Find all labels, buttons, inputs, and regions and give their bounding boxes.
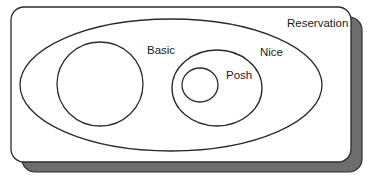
reservation-container-box — [11, 7, 351, 162]
posh-label: Posh — [226, 69, 252, 81]
nice-label: Nice — [260, 46, 283, 58]
reservation-label: Reservation — [287, 17, 348, 29]
basic-label: Basic — [147, 44, 175, 56]
venn-diagram: Reservation Basic Nice Posh — [0, 0, 372, 180]
